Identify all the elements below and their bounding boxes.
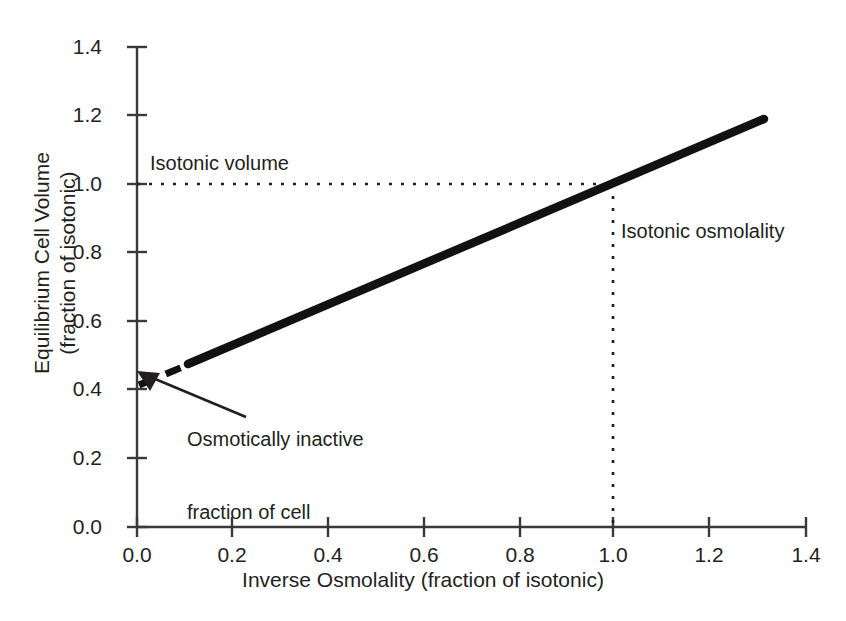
annotation-isotonic-volume: Isotonic volume — [150, 152, 289, 175]
x-tick-label-0.6: 0.6 — [394, 543, 454, 567]
x-tick-label-0.0: 0.0 — [107, 543, 167, 567]
y-axis-title-line2: (fraction of isotonic) — [55, 53, 81, 473]
chart-figure: 1.4 1.2 1.0 0.8 0.6 0.4 0.2 0.0 0.0 0.2 … — [0, 0, 846, 621]
y-tick-label-0.0: 0.0 — [42, 515, 102, 539]
x-tick-label-1.4: 1.4 — [776, 543, 836, 567]
x-axis-title: Inverse Osmolality (fraction of isotonic… — [0, 568, 846, 592]
x-tick-label-1.2: 1.2 — [679, 543, 739, 567]
annotation-osmotically-inactive-line1: Osmotically inactive — [187, 426, 364, 453]
x-tick-label-1.0: 1.0 — [583, 543, 643, 567]
annotation-isotonic-osmolality: Isotonic osmolality — [621, 220, 784, 243]
annotation-osmotically-inactive: Osmotically inactive fraction of cell — [187, 380, 364, 571]
x-tick-label-0.8: 0.8 — [490, 543, 550, 567]
plot-canvas — [0, 0, 846, 621]
y-axis-title: Equilibrium Cell Volume (fraction of iso… — [29, 53, 89, 473]
annotation-osmotically-inactive-line2: fraction of cell — [187, 499, 364, 526]
y-axis-title-line1: Equilibrium Cell Volume — [29, 53, 55, 473]
